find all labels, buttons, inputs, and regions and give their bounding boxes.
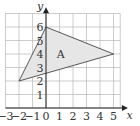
coordinate-diagram: A xy −3−2−1012345123456 [0, 0, 140, 126]
x-tick-label: 5 [110, 110, 117, 123]
y-tick-label: 2 [37, 75, 44, 88]
y-tick-label: 4 [37, 48, 44, 61]
y-tick-label: 3 [37, 62, 44, 75]
triangle-a: A [19, 27, 114, 81]
y-tick-label: 6 [37, 21, 44, 34]
x-tick-label: 4 [97, 110, 104, 123]
y-tick-label: 5 [37, 35, 44, 48]
triangle-polygon [19, 27, 114, 81]
y-axis-label: y [36, 0, 44, 13]
x-tick-label: 2 [70, 110, 77, 123]
shape-label-a: A [56, 48, 66, 61]
x-tick-label: −1 [24, 110, 40, 123]
x-tick-label: 0 [43, 110, 50, 123]
x-axis-label: x [127, 109, 134, 122]
x-tick-label: 1 [56, 110, 63, 123]
y-axis-arrow-icon [43, 7, 49, 13]
x-tick-label: 3 [83, 110, 90, 123]
y-tick-label: 1 [37, 89, 44, 102]
